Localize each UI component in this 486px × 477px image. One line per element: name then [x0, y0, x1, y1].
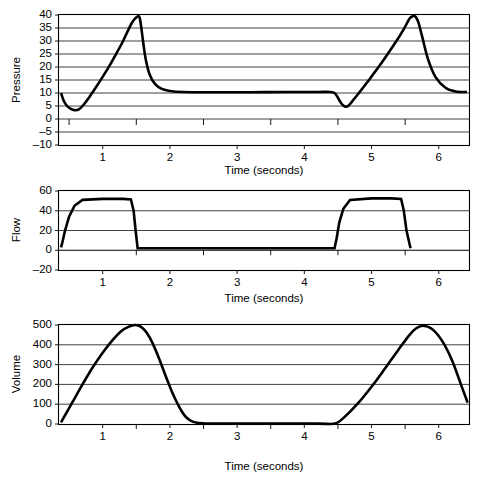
x-tick-label: 1 — [99, 430, 105, 442]
flow-xtick-labels: 123456 — [99, 276, 441, 288]
y-tick-label: 40 — [39, 8, 52, 20]
volume-plot-frame — [59, 325, 470, 425]
y-tick-label: 200 — [33, 377, 52, 389]
flow-ytick-labels: –200204060 — [33, 184, 52, 275]
y-tick-label: 0 — [46, 243, 52, 255]
y-tick-label: 20 — [39, 224, 52, 236]
pressure-x-axis-title: Time (seconds) — [225, 164, 304, 176]
volume-xtick-labels: 123456 — [99, 430, 441, 442]
y-tick-label: 0 — [46, 112, 52, 124]
x-tick-label: 1 — [99, 276, 105, 288]
pressure-chart-panel: –10–50510152025303540 123456 Pressure Ti… — [0, 0, 486, 180]
y-tick-label: 35 — [39, 21, 52, 33]
y-tick-label: –5 — [39, 125, 52, 137]
x-tick-label: 2 — [167, 430, 173, 442]
y-tick-label: 0 — [46, 417, 52, 429]
x-tick-label: 4 — [301, 151, 308, 163]
volume-chart-svg: 0100200300400500 123456 Volume Time (sec… — [0, 310, 486, 477]
volume-trace-line — [61, 325, 468, 424]
flow-chart-svg: –200204060 123456 Flow Time (seconds) — [0, 180, 486, 310]
pressure-ytick-labels: –10–50510152025303540 — [33, 8, 52, 150]
x-tick-label: 1 — [99, 151, 105, 163]
x-tick-label: 4 — [301, 430, 308, 442]
pressure-trace-line — [61, 16, 467, 110]
x-tick-label: 2 — [167, 151, 173, 163]
y-tick-label: 60 — [39, 184, 52, 196]
y-tick-label: 40 — [39, 204, 52, 216]
ventilator-waveform-figure: –10–50510152025303540 123456 Pressure Ti… — [0, 0, 486, 477]
y-tick-label: 15 — [39, 73, 52, 85]
flow-trace-line — [61, 198, 411, 248]
flow-chart-panel: –200204060 123456 Flow Time (seconds) — [0, 180, 486, 310]
x-tick-label: 6 — [436, 430, 442, 442]
volume-chart-panel: 0100200300400500 123456 Volume Time (sec… — [0, 310, 486, 477]
pressure-chart-svg: –10–50510152025303540 123456 Pressure Ti… — [0, 0, 486, 180]
y-tick-label: –10 — [33, 138, 52, 150]
volume-y-axis-title: Volume — [10, 355, 22, 393]
x-tick-label: 5 — [368, 276, 374, 288]
y-tick-label: –20 — [33, 263, 52, 275]
x-tick-label: 5 — [368, 151, 374, 163]
flow-y-axis-title: Flow — [10, 217, 22, 242]
flow-x-axis-title: Time (seconds) — [225, 292, 304, 304]
x-tick-label: 6 — [436, 151, 442, 163]
y-tick-label: 100 — [33, 397, 52, 409]
volume-ytick-labels: 0100200300400500 — [33, 318, 52, 429]
y-tick-label: 300 — [33, 358, 52, 370]
x-tick-label: 5 — [368, 430, 374, 442]
pressure-ticks — [55, 15, 439, 149]
y-tick-label: 10 — [39, 86, 52, 98]
x-tick-label: 3 — [234, 276, 240, 288]
x-tick-label: 2 — [167, 276, 173, 288]
pressure-y-axis-title: Pressure — [10, 57, 22, 103]
flow-ticks — [55, 191, 439, 274]
x-tick-label: 6 — [436, 276, 442, 288]
pressure-xtick-labels: 123456 — [99, 151, 441, 163]
x-tick-label: 3 — [234, 430, 240, 442]
volume-x-axis-title: Time (seconds) — [225, 460, 304, 472]
x-tick-label: 4 — [301, 276, 308, 288]
y-tick-label: 5 — [46, 99, 52, 111]
y-tick-label: 400 — [33, 338, 52, 350]
y-tick-label: 20 — [39, 60, 52, 72]
y-tick-label: 25 — [39, 47, 52, 59]
y-tick-label: 500 — [33, 318, 52, 330]
volume-grid — [59, 345, 469, 404]
y-tick-label: 30 — [39, 34, 52, 46]
x-tick-label: 3 — [234, 151, 240, 163]
